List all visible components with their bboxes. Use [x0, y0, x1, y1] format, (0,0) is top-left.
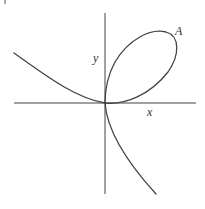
x-axis-label: x — [146, 105, 153, 119]
y-axis-label: y — [92, 51, 99, 65]
curve-loop — [105, 31, 177, 103]
curve-left-branch — [14, 53, 105, 103]
point-a-label: A — [174, 24, 183, 38]
curve-diagram: A y x — [0, 0, 205, 209]
